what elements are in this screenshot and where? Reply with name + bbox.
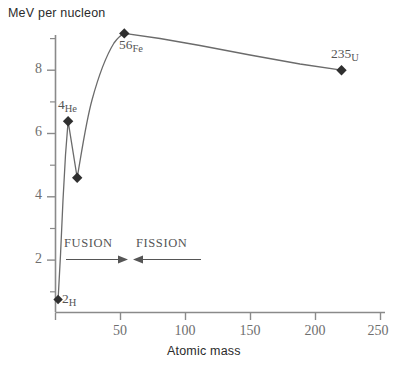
data-point-markers — [53, 28, 346, 304]
x-tick-label-100: 100 — [165, 323, 205, 339]
helium-mass-number: 4 — [58, 97, 65, 112]
y-tick-label-2: 2 — [20, 251, 42, 267]
x-tick-label-250: 250 — [358, 323, 398, 339]
x-tick-label-200: 200 — [295, 323, 335, 339]
point-label-uranium-235: 235U — [331, 46, 359, 62]
x-tick-label-150: 150 — [230, 323, 270, 339]
uranium-mass-number: 235 — [331, 46, 351, 61]
helium-symbol: He — [65, 103, 77, 114]
marker-uranium-235 — [336, 65, 346, 75]
x-axis-title: Atomic mass — [167, 344, 241, 358]
x-tick-label-50: 50 — [100, 323, 140, 339]
y-tick-label-8: 8 — [20, 61, 42, 77]
y-axis-title: MeV per nucleon — [8, 6, 106, 20]
y-tick-label-4: 4 — [20, 187, 42, 203]
iron-symbol: Fe — [133, 43, 144, 54]
uranium-symbol: U — [351, 52, 359, 63]
y-tick-label-6: 6 — [20, 124, 42, 140]
chart-page: MeV per nucleon Atomic mass 8 6 4 2 50 1… — [0, 0, 399, 373]
fission-arrow — [133, 256, 201, 264]
x-axis-ticks — [56, 313, 381, 321]
point-label-helium-4: 4He — [58, 97, 77, 113]
deuterium-symbol: H — [69, 297, 77, 308]
marker-helium-4 — [63, 116, 73, 126]
deuterium-mass-number: 2 — [62, 291, 69, 306]
fission-label: FISSION — [136, 236, 187, 251]
marker-dip — [72, 173, 82, 183]
y-minor-ticks — [50, 39, 56, 292]
point-label-deuterium: 2H — [62, 291, 76, 307]
fusion-arrow — [66, 256, 128, 264]
point-label-iron-56: 56Fe — [119, 37, 143, 53]
iron-mass-number: 56 — [119, 37, 133, 52]
fusion-label: FUSION — [64, 236, 113, 251]
